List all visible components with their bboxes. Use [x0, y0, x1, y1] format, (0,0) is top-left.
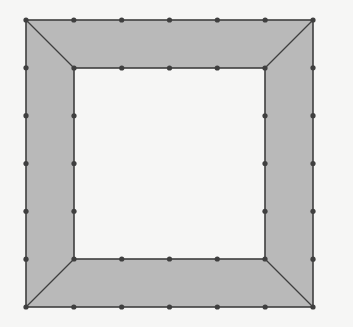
bottom-trapezoid — [26, 259, 313, 307]
lattice-point — [71, 161, 76, 166]
square-frame-diagram — [0, 0, 353, 327]
lattice-point — [71, 17, 76, 22]
inner-square — [74, 68, 265, 259]
lattice-point — [167, 65, 172, 70]
lattice-point — [310, 161, 315, 166]
lattice-point — [262, 65, 267, 70]
lattice-point — [23, 161, 28, 166]
lattice-point — [167, 304, 172, 309]
left-trapezoid — [26, 20, 74, 307]
lattice-point — [215, 256, 220, 261]
lattice-point — [23, 257, 28, 262]
lattice-point — [215, 17, 220, 22]
lattice-point — [23, 65, 28, 70]
lattice-point — [71, 209, 76, 214]
lattice-point — [119, 17, 124, 22]
lattice-point — [71, 304, 76, 309]
lattice-point — [71, 65, 76, 70]
lattice-point — [23, 17, 28, 22]
lattice-point — [310, 17, 315, 22]
top-trapezoid — [26, 20, 313, 68]
lattice-point — [215, 304, 220, 309]
lattice-point — [310, 113, 315, 118]
lattice-point — [71, 113, 76, 118]
lattice-point — [263, 17, 268, 22]
lattice-point — [23, 113, 28, 118]
lattice-point — [215, 65, 220, 70]
lattice-point — [262, 161, 267, 166]
lattice-point — [167, 17, 172, 22]
lattice-point — [167, 256, 172, 261]
lattice-point — [262, 256, 267, 261]
lattice-point — [119, 304, 124, 309]
lattice-point — [262, 209, 267, 214]
lattice-point — [23, 304, 28, 309]
lattice-point — [71, 256, 76, 261]
lattice-point — [310, 257, 315, 262]
right-trapezoid — [265, 20, 313, 307]
lattice-point — [119, 256, 124, 261]
lattice-point — [263, 304, 268, 309]
lattice-point — [310, 209, 315, 214]
lattice-point — [23, 209, 28, 214]
lattice-point — [310, 65, 315, 70]
lattice-point — [310, 304, 315, 309]
lattice-point — [119, 65, 124, 70]
lattice-point — [262, 113, 267, 118]
